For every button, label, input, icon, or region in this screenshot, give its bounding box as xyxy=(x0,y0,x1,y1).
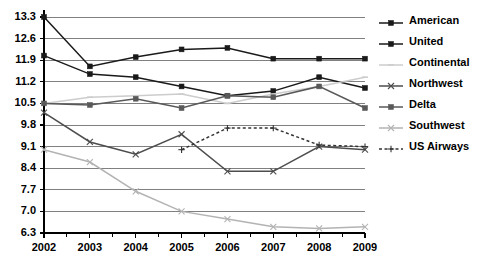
data-point xyxy=(271,56,276,61)
data-point xyxy=(179,84,184,89)
data-point xyxy=(270,125,276,131)
legend-swatch-icon xyxy=(378,15,404,27)
legend-swatch-icon xyxy=(378,57,404,69)
data-point xyxy=(271,95,276,100)
legend-marker xyxy=(389,104,394,109)
data-point xyxy=(317,56,322,61)
x-axis-label: 2002 xyxy=(24,242,64,253)
data-point xyxy=(363,106,368,111)
data-point xyxy=(225,45,230,50)
legend-marker xyxy=(388,145,394,151)
legend-item-continental[interactable]: Continental xyxy=(378,52,486,73)
legend-item-southwest[interactable]: Southwest xyxy=(378,115,486,136)
x-axis-label: 2004 xyxy=(116,242,156,253)
data-point xyxy=(87,103,92,108)
data-point xyxy=(225,93,230,98)
y-axis-label: 9.8 xyxy=(6,119,36,130)
data-point xyxy=(42,53,47,58)
y-axis-label: 7.0 xyxy=(6,205,36,216)
x-axis-label: 2008 xyxy=(299,242,339,253)
y-axis-label: 13.3 xyxy=(6,11,36,22)
legend-marker xyxy=(389,41,394,46)
data-point xyxy=(133,96,138,101)
legend-label: Northwest xyxy=(409,78,463,89)
x-axis-label: 2007 xyxy=(253,242,293,253)
x-axis-label: 2009 xyxy=(345,242,385,253)
y-axis-label: 7.7 xyxy=(6,184,36,195)
legend-swatch-icon xyxy=(378,141,404,153)
y-axis-label: 11.2 xyxy=(6,76,36,87)
y-axis-label: 9.1 xyxy=(6,141,36,152)
legend-label: Delta xyxy=(409,99,436,110)
x-axis-label: 2006 xyxy=(207,242,247,253)
series-southwest xyxy=(41,147,368,232)
legend-item-us-airways[interactable]: US Airways xyxy=(378,136,486,157)
legend-swatch-icon xyxy=(378,36,404,48)
legend-item-american[interactable]: American xyxy=(378,10,486,31)
data-point xyxy=(179,47,184,52)
data-point xyxy=(87,72,92,77)
legend-label: US Airways xyxy=(409,141,469,152)
data-point xyxy=(133,188,139,194)
x-axis-label: 2003 xyxy=(70,242,110,253)
chart-legend: AmericanUnitedContinentalNorthwestDeltaS… xyxy=(378,10,486,157)
y-axis-label: 10.5 xyxy=(6,97,36,108)
data-point xyxy=(271,89,276,94)
data-point xyxy=(317,84,322,89)
y-axis-label: 6.3 xyxy=(6,227,36,238)
legend-label: Southwest xyxy=(409,120,465,131)
legend-swatch-icon xyxy=(378,99,404,111)
y-axis-label: 11.9 xyxy=(6,54,36,65)
legend-marker xyxy=(389,20,394,25)
line-chart: 13.312.611.911.210.59.89.18.47.77.06.3 2… xyxy=(0,0,488,262)
data-point xyxy=(224,125,230,131)
series-line xyxy=(44,113,365,172)
legend-label: American xyxy=(409,15,459,26)
data-point xyxy=(42,101,47,106)
data-point xyxy=(317,75,322,80)
x-axis-label: 2005 xyxy=(162,242,202,253)
data-point xyxy=(363,56,368,61)
y-axis-label: 12.6 xyxy=(6,33,36,44)
legend-item-northwest[interactable]: Northwest xyxy=(378,73,486,94)
data-point xyxy=(178,146,184,152)
legend-swatch-icon xyxy=(378,78,404,90)
series-line xyxy=(44,150,365,229)
legend-swatch-icon xyxy=(378,120,404,132)
data-point xyxy=(42,15,47,20)
data-point xyxy=(179,131,185,137)
legend-item-united[interactable]: United xyxy=(378,31,486,52)
legend-label: Continental xyxy=(409,57,470,68)
data-point xyxy=(87,64,92,69)
y-axis-label: 8.4 xyxy=(6,162,36,173)
data-point xyxy=(133,55,138,60)
legend-label: United xyxy=(409,36,443,47)
data-point xyxy=(363,86,368,91)
data-point xyxy=(133,75,138,80)
legend-item-delta[interactable]: Delta xyxy=(378,94,486,115)
data-point xyxy=(179,106,184,111)
